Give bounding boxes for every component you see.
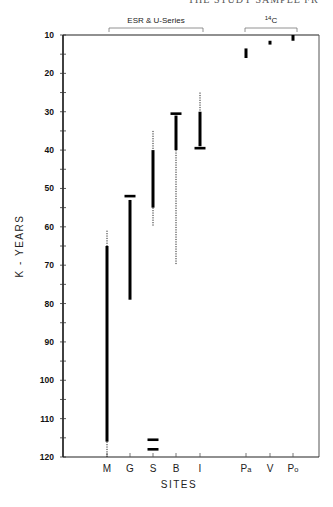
site-label-g: G	[126, 463, 134, 474]
group-label: 14C	[265, 15, 278, 25]
y-tick-label: 50	[45, 183, 55, 193]
y-tick-label: 40	[45, 145, 55, 155]
y-tick-label: 60	[45, 222, 55, 232]
site-label-v: V	[267, 463, 274, 474]
site-label-s: S	[150, 463, 157, 474]
plot-frame	[63, 35, 319, 457]
y-tick-label: 110	[40, 414, 54, 424]
y-axis-title: K - YEARS	[14, 215, 25, 278]
site-label-pa: Pa	[241, 463, 253, 474]
site-group-brackets: ESR & U-Series14C	[109, 15, 297, 32]
y-tick-label: 20	[45, 68, 55, 78]
y-tick-label: 10	[45, 30, 55, 40]
site-label-i: I	[199, 463, 202, 474]
y-tick-label: 100	[40, 375, 54, 385]
y-tick-label: 70	[45, 260, 55, 270]
y-tick-label: 30	[45, 107, 55, 117]
y-tick-label: 90	[45, 337, 55, 347]
site-label-b: B	[173, 463, 180, 474]
site-label-po: Po	[288, 463, 299, 474]
age-range-chart: 102030405060708090100110120 MGSBIPaVPo E…	[0, 0, 333, 507]
group-bracket	[245, 28, 297, 32]
site-label-m: M	[103, 463, 111, 474]
y-tick-label: 120	[40, 452, 54, 462]
x-axis-title: SITES	[161, 479, 197, 490]
x-axis: MGSBIPaVPo	[103, 453, 299, 474]
group-bracket	[109, 28, 203, 32]
group-label: ESR & U-Series	[127, 16, 184, 25]
y-axis: 102030405060708090100110120	[40, 30, 66, 462]
data-ranges	[107, 35, 293, 457]
y-tick-label: 80	[45, 299, 55, 309]
